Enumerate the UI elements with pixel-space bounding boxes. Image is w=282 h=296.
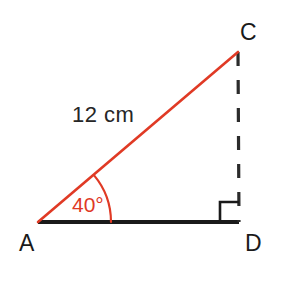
- vertex-label-a: A: [19, 230, 35, 256]
- triangle-diagram: A C D 12 cm 40°: [0, 0, 282, 296]
- vertex-label-d: D: [245, 230, 262, 256]
- angle-measure-label-a: 40°: [72, 193, 104, 216]
- vertex-label-c: C: [240, 19, 257, 45]
- geometry-figure: A C D 12 cm 40°: [0, 0, 282, 296]
- side-length-label-ac: 12 cm: [72, 102, 134, 127]
